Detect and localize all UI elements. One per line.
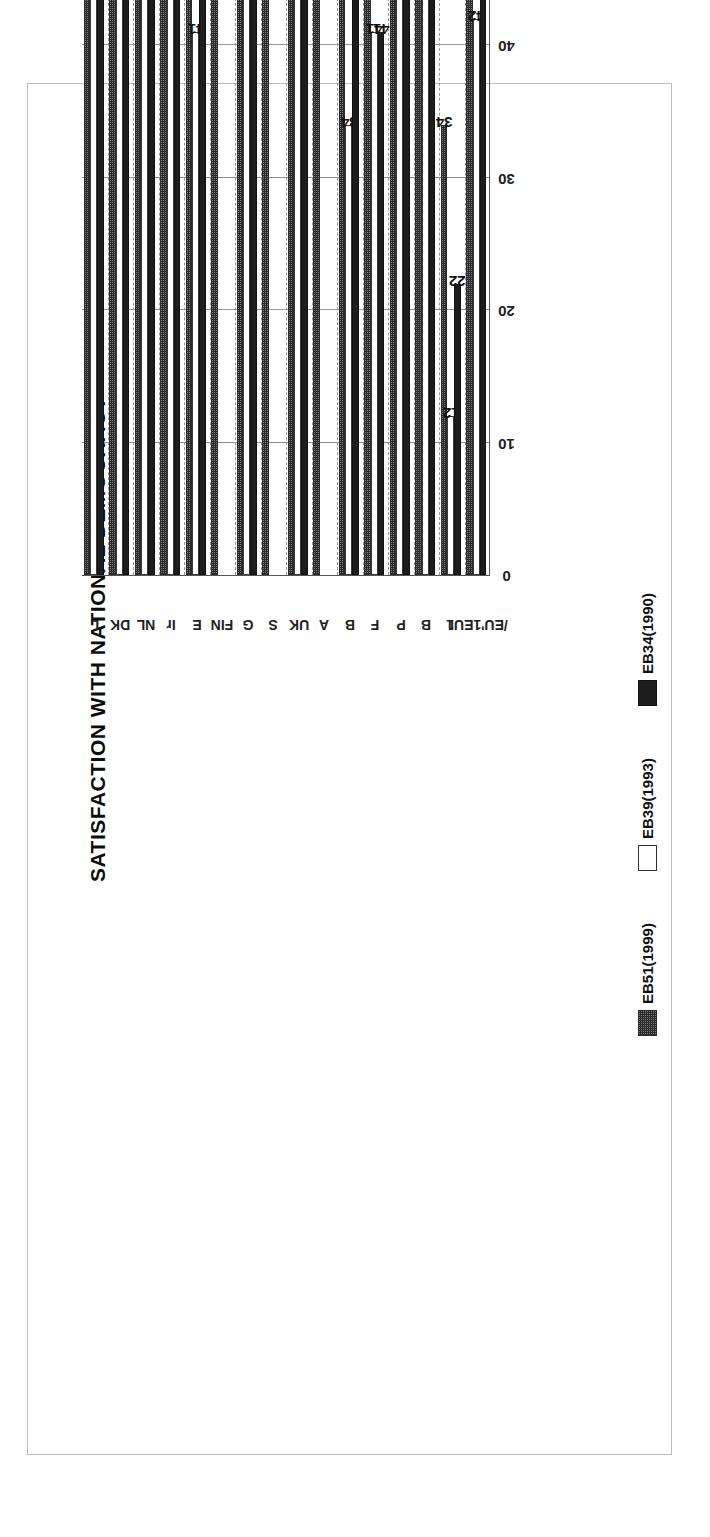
- bar-chart: 8372728181707868677462597141576766517465…: [60, 0, 620, 664]
- bar-eb34-B: [352, 0, 359, 575]
- bar-eb51-S: [262, 0, 269, 575]
- bar-group: 494956: [414, 0, 440, 575]
- bar-eb39-E: [192, 32, 199, 575]
- bar-eb51-E: [186, 0, 193, 575]
- bar-eb34-G: [250, 0, 257, 575]
- bar-eb34-Ir: [174, 0, 181, 575]
- bar-group: 818170: [108, 0, 134, 575]
- bar-group: 644950: [286, 0, 312, 575]
- bar-group: 746259: [159, 0, 185, 575]
- bar-eb39-G: [243, 0, 250, 575]
- bar-group: 786867: [133, 0, 159, 575]
- bar-group: 341222: [439, 0, 465, 575]
- bar-eb34-EU1EU1: [480, 0, 487, 575]
- bar-eb39-B: [345, 125, 352, 575]
- bar-eb51-B: [415, 0, 422, 575]
- bar-eb51-DK: [109, 0, 116, 575]
- bar-eb51-G: [237, 0, 244, 575]
- legend-host: EB34(1990)EB39(1993)EB51(1999): [612, 520, 682, 990]
- bar-eb51-F: [364, 0, 371, 575]
- plot-inner: 8372728181707868677462597141576766517465…: [82, 0, 489, 575]
- bar-eb51-P: [390, 0, 397, 575]
- bar-group: 604252: [465, 0, 491, 575]
- bar-eb39-F: [371, 32, 378, 575]
- bar-eb39-DK: [116, 0, 123, 575]
- bar-group: 65: [261, 0, 287, 575]
- bar-eb51-FIN: [211, 0, 218, 575]
- legend-swatch-icon: [638, 1010, 657, 1036]
- value-tick-30: 30: [495, 170, 519, 187]
- bar-eb34-F: [378, 32, 385, 575]
- value-tick-0: 0: [495, 568, 519, 585]
- bar-eb51-EU1EU1: [466, 0, 473, 575]
- bar-group: 623444: [337, 0, 363, 575]
- bar-eb34-UK: [301, 0, 308, 575]
- data-label: 34: [436, 113, 453, 130]
- bar-eb39-Ir: [167, 0, 174, 575]
- bar-eb34-B: [429, 0, 436, 575]
- data-label: 41: [373, 20, 390, 37]
- bar-group: 714157: [184, 0, 210, 575]
- bar-eb51-L: [84, 0, 91, 575]
- bar-eb34-I: [454, 284, 461, 575]
- bar-eb51-UK: [288, 0, 295, 575]
- bar-group: 64: [312, 0, 338, 575]
- bar-eb34-NL: [148, 0, 155, 575]
- bar-eb39-P: [396, 0, 403, 575]
- bar-eb39-L: [90, 0, 97, 575]
- bar-eb51-I: [441, 125, 448, 575]
- bar-eb34-E: [199, 0, 206, 575]
- value-tick-20: 20: [495, 303, 519, 320]
- bar-eb39-EU1EU1: [473, 19, 480, 575]
- plot-area: 8372728181707868677462597141576766517465…: [82, 0, 490, 576]
- bar-group: 665174: [235, 0, 261, 575]
- bar-group: 594141: [363, 0, 389, 575]
- bar-eb39-NL: [141, 0, 148, 575]
- value-tick-10: 10: [495, 435, 519, 452]
- bar-eb51-Ir: [160, 0, 167, 575]
- bar-group: 67: [210, 0, 236, 575]
- legend-item[interactable]: EB51(1999): [636, 826, 658, 1036]
- scanned-page: SATISFACTION WITH NATIONAL DEMOCRACY 837…: [0, 0, 710, 1537]
- bar-eb34-DK: [123, 0, 130, 575]
- bar-eb39-UK: [294, 0, 301, 575]
- bar-group: 575471: [388, 0, 414, 575]
- bar-eb34-L: [97, 0, 104, 575]
- bar-group: 837272: [82, 0, 108, 575]
- data-label: 22: [449, 272, 466, 289]
- bar-eb51-A: [313, 0, 320, 575]
- legend-label: EB51(1999): [639, 923, 656, 1004]
- chart-rotation-wrapper: 8372728181707868677462597141576766517465…: [60, 104, 620, 1444]
- bar-eb51-NL: [135, 0, 142, 575]
- bar-eb34-P: [403, 0, 410, 575]
- category-label-EU1EU1: /EU'1EU1: [432, 616, 522, 634]
- bar-eb39-I: [447, 416, 454, 575]
- value-tick-40: 40: [495, 38, 519, 55]
- bar-eb39-B: [422, 0, 429, 575]
- chart-legend: EB34(1990)EB39(1993)EB51(1999): [612, 520, 682, 990]
- bar-eb51-B: [339, 0, 346, 575]
